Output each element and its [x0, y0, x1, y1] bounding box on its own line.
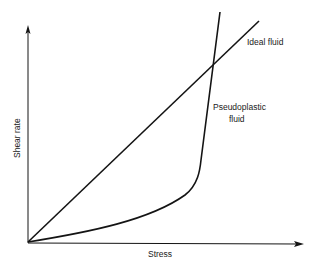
pseudoplastic-label-line1: Pseudoplastic [213, 102, 267, 112]
ideal-fluid-label: Ideal fluid [247, 37, 284, 47]
pseudoplastic-label-line2: fluid [229, 114, 245, 124]
x-axis-label: Stress [148, 249, 172, 259]
pseudoplastic-fluid-curve [28, 12, 220, 242]
y-axis-label: Shear rate [12, 118, 22, 158]
ideal-fluid-line [28, 21, 259, 242]
shear-rate-vs-stress-diagram: Ideal fluid Pseudoplastic fluid Stress S… [0, 0, 318, 270]
x-axis [28, 243, 298, 244]
